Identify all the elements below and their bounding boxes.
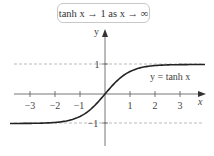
curve-label: y = tanh x (150, 71, 190, 82)
x-tick-label: −2 (50, 100, 61, 111)
y-axis-arrow-icon (102, 29, 108, 37)
x-axis-label: x (197, 96, 203, 107)
y-tick-label-pos: 1 (95, 59, 100, 70)
x-tick-label: 2 (153, 100, 158, 111)
x-tick-label: 3 (178, 100, 183, 111)
y-axis-label: y (94, 26, 99, 37)
x-tick-label: −1 (74, 100, 85, 111)
y-tick-label-neg: −1 (88, 118, 99, 129)
chart-plot: −3 −2 −1 1 2 3 1 −1 x y y = tanh x (0, 0, 214, 156)
x-tick-label: 1 (128, 100, 133, 111)
x-tick-label: −3 (25, 100, 36, 111)
